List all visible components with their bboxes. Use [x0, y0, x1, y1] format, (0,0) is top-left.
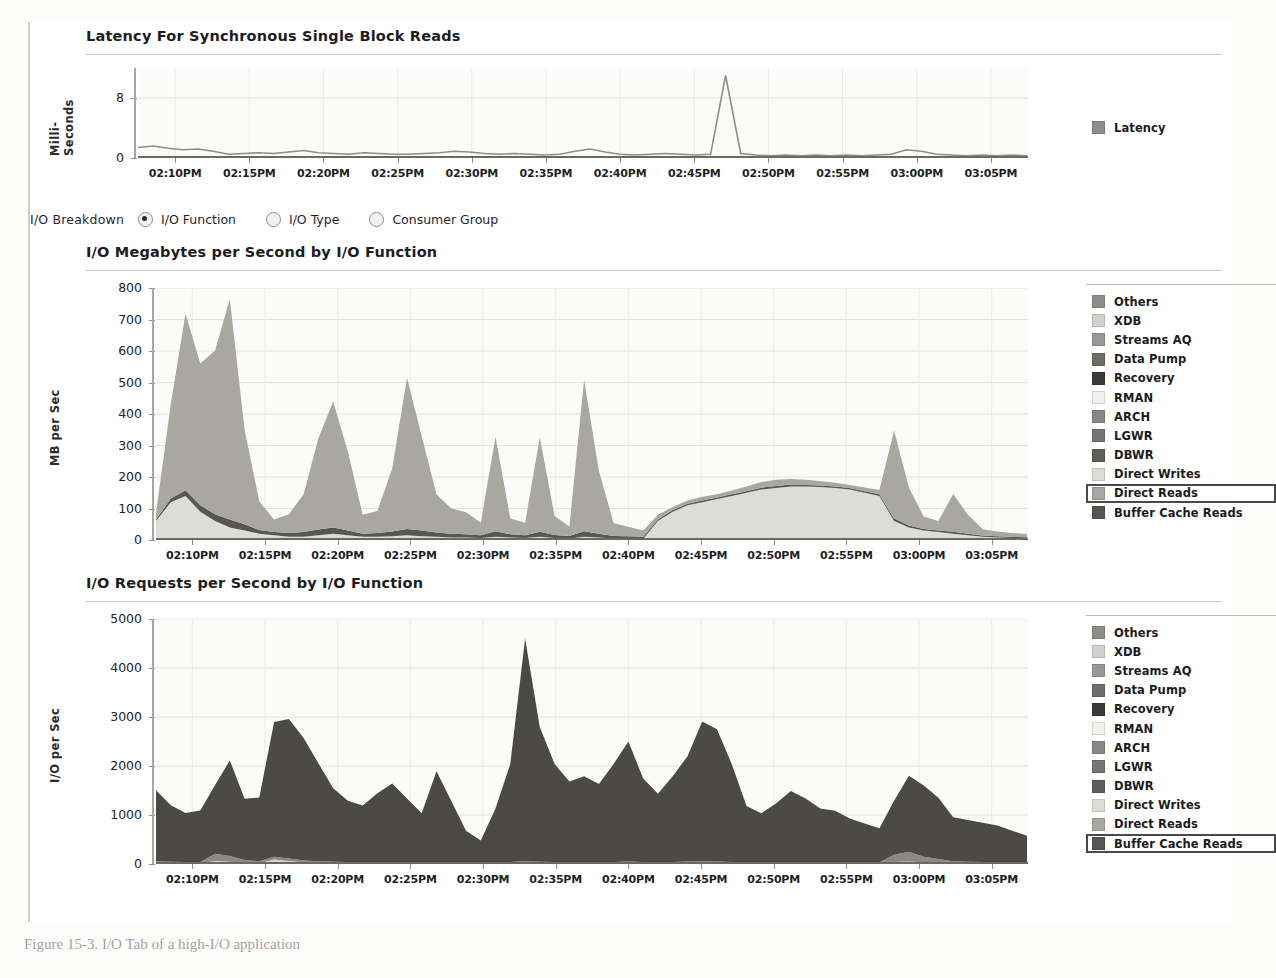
x-tick-label: 02:20PM [307, 873, 369, 886]
radio-io-function[interactable]: I/O Function [138, 212, 236, 227]
x-tick-label: 02:15PM [234, 549, 296, 562]
radio-label: Consumer Group [392, 212, 498, 227]
x-tick [846, 540, 847, 545]
y-tick-label: 200 [82, 469, 142, 484]
legend-item-recovery[interactable]: Recovery [1086, 700, 1276, 719]
legend-item-latency[interactable]: Latency [1086, 118, 1166, 137]
latency-y-axis-title: Milli-Seconds [48, 70, 76, 156]
legend-item-dbwr[interactable]: DBWR [1086, 777, 1276, 796]
legend-label: Others [1114, 626, 1158, 640]
legend-label: Direct Writes [1114, 467, 1201, 481]
legend-item-lgwr[interactable]: LGWR [1086, 426, 1276, 445]
legend-swatch-icon [1092, 684, 1105, 697]
x-tick-label: 03:00PM [886, 167, 948, 180]
legend-label: DBWR [1114, 448, 1154, 462]
radio-label: I/O Type [289, 212, 339, 227]
legend-swatch-icon [1092, 664, 1105, 677]
x-tick-label: 02:30PM [452, 873, 514, 886]
x-tick [546, 158, 547, 163]
x-tick-label: 02:10PM [144, 167, 206, 180]
figure-caption: Figure 15-3. I/O Tab of a high-I/O appli… [24, 936, 300, 953]
x-tick [483, 864, 484, 869]
x-tick [628, 864, 629, 869]
iops-legend: OthersXDBStreams AQData PumpRecoveryRMAN… [1086, 615, 1276, 853]
x-tick [919, 864, 920, 869]
y-tick [131, 158, 137, 159]
mbps-plot-area: 010020030040050060070080002:10PM02:15PM0… [156, 288, 1028, 540]
line-series-latency [138, 76, 1027, 156]
legend-swatch-icon [1092, 314, 1105, 327]
x-tick [701, 540, 702, 545]
legend-label: XDB [1114, 314, 1141, 328]
legend-item-xdb[interactable]: XDB [1086, 311, 1276, 330]
y-tick [149, 864, 155, 865]
mbps-divider [86, 270, 1222, 271]
mbps-y-axis-title: MB per Sec [48, 374, 62, 466]
x-tick [992, 864, 993, 869]
legend-label: ARCH [1114, 741, 1150, 755]
y-tick-label: 500 [82, 375, 142, 390]
x-tick-label: 02:25PM [367, 167, 429, 180]
legend-item-lgwr[interactable]: LGWR [1086, 757, 1276, 776]
legend-label: Streams AQ [1114, 333, 1192, 347]
x-tick-label: 02:45PM [663, 167, 725, 180]
x-tick [398, 158, 399, 163]
legend-label: Buffer Cache Reads [1114, 837, 1243, 851]
x-tick-label: 02:45PM [670, 549, 732, 562]
y-tick-label: 0 [64, 150, 124, 165]
legend-swatch-icon [1092, 506, 1105, 519]
legend-item-direct-writes[interactable]: Direct Writes [1086, 796, 1276, 815]
x-tick [472, 158, 473, 163]
y-tick-label: 0 [82, 856, 142, 871]
x-tick [410, 864, 411, 869]
legend-swatch-icon [1092, 410, 1105, 423]
legend-item-recovery[interactable]: Recovery [1086, 369, 1276, 388]
legend-label: Direct Reads [1114, 817, 1198, 831]
legend-item-buffer-cache-reads[interactable]: Buffer Cache Reads [1086, 503, 1276, 522]
legend-item-rman[interactable]: RMAN [1086, 388, 1276, 407]
x-tick-label: 02:20PM [292, 167, 354, 180]
legend-swatch-icon [1092, 818, 1105, 831]
x-tick [249, 158, 250, 163]
y-tick [149, 540, 155, 541]
legend-item-xdb[interactable]: XDB [1086, 642, 1276, 661]
x-tick [265, 864, 266, 869]
legend-item-streams-aq[interactable]: Streams AQ [1086, 330, 1276, 349]
legend-item-direct-reads[interactable]: Direct Reads [1086, 484, 1276, 503]
x-tick [620, 158, 621, 163]
x-tick-label: 02:40PM [597, 549, 659, 562]
radio-io-type[interactable]: I/O Type [266, 212, 339, 227]
y-tick-label: 400 [82, 406, 142, 421]
x-tick [265, 540, 266, 545]
legend-item-data-pump[interactable]: Data Pump [1086, 681, 1276, 700]
legend-item-arch[interactable]: ARCH [1086, 407, 1276, 426]
legend-label: ARCH [1114, 410, 1150, 424]
legend-swatch-icon [1092, 353, 1105, 366]
legend-label: Direct Reads [1114, 486, 1198, 500]
iops-title: I/O Requests per Second by I/O Function [86, 575, 423, 591]
legend-swatch-icon [1092, 295, 1105, 308]
radio-consumer-group[interactable]: Consumer Group [369, 212, 498, 227]
x-tick [175, 158, 176, 163]
legend-item-direct-reads[interactable]: Direct Reads [1086, 815, 1276, 834]
legend-item-arch[interactable]: ARCH [1086, 738, 1276, 757]
y-tick-label: 100 [82, 501, 142, 516]
x-tick [410, 540, 411, 545]
legend-swatch-icon [1092, 799, 1105, 812]
x-tick-label: 02:55PM [812, 167, 874, 180]
radio-label: I/O Function [161, 212, 236, 227]
radio-dot-icon [369, 212, 384, 227]
legend-item-data-pump[interactable]: Data Pump [1086, 350, 1276, 369]
x-tick-label: 02:50PM [743, 549, 805, 562]
legend-item-buffer-cache-reads[interactable]: Buffer Cache Reads [1086, 834, 1276, 853]
legend-item-others[interactable]: Others [1086, 292, 1276, 311]
legend-swatch-icon [1092, 703, 1105, 716]
legend-item-dbwr[interactable]: DBWR [1086, 446, 1276, 465]
legend-swatch-icon [1092, 391, 1105, 404]
iops-divider [86, 601, 1222, 602]
legend-item-direct-writes[interactable]: Direct Writes [1086, 465, 1276, 484]
legend-swatch-icon [1092, 645, 1105, 658]
legend-item-streams-aq[interactable]: Streams AQ [1086, 661, 1276, 680]
legend-item-others[interactable]: Others [1086, 623, 1276, 642]
legend-item-rman[interactable]: RMAN [1086, 719, 1276, 738]
